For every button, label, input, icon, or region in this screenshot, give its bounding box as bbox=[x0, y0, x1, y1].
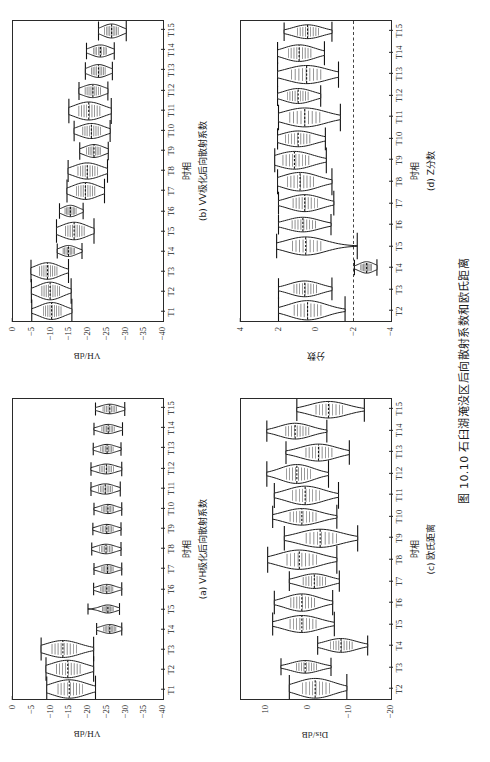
panel-a-y-tick: −35 bbox=[139, 700, 148, 718]
panel-a-y-tick: −10 bbox=[45, 700, 54, 718]
panel-c-y-tick: −10 bbox=[344, 700, 353, 718]
panel-d-x-tick: T9 bbox=[390, 155, 404, 164]
panel-d-x-tick: T6 bbox=[390, 220, 404, 229]
panel-c-x-tick: T8 bbox=[390, 555, 404, 564]
panel-b-y-tick: −30 bbox=[120, 322, 129, 340]
panel-b-x-tick: T5 bbox=[162, 227, 176, 236]
rotated-page: VH/dB 0−5−10−15−20−25−30−35−40 T1T2T3T4T… bbox=[0, 0, 490, 762]
panel-c-y-tick: 0 bbox=[302, 700, 311, 709]
panel-a-plot-area bbox=[12, 398, 164, 700]
panel-a-y-tick: −15 bbox=[64, 700, 73, 718]
panel-d-z-score: 分数 420−2−4 T2T3T4T5T6T7T8T9T10T11T12T13T… bbox=[236, 14, 448, 366]
panel-c-y-tick: −20 bbox=[386, 700, 395, 718]
panel-b-vv-backscatter: VH/dB 0−5−10−15−20−25−30−35−40 T1T2T3T4T… bbox=[8, 14, 220, 366]
panel-c-subcaption: (c) 欧氏距离 bbox=[424, 398, 437, 700]
panel-b-x-tick: T4 bbox=[162, 247, 176, 256]
panel-d-x-tick: T15 bbox=[390, 24, 404, 38]
panel-d-y-tick: −4 bbox=[386, 322, 395, 336]
panel-b-x-tick: T11 bbox=[162, 104, 176, 117]
panel-c-x-ticks: T2T3T4T5T6T7T8T9T10T11T12T13T14T15 bbox=[390, 398, 406, 700]
panel-d-x-tick: T14 bbox=[390, 46, 404, 60]
panel-c-x-tick: T7 bbox=[390, 577, 404, 586]
panel-d-x-tick: T2 bbox=[390, 306, 404, 315]
panel-c-x-tick: T15 bbox=[390, 402, 404, 416]
panel-a-x-tick: T15 bbox=[162, 401, 176, 415]
panel-b-y-tick: 0 bbox=[8, 322, 17, 331]
panel-b-y-tick: −25 bbox=[102, 322, 111, 340]
panel-a-x-tick: T13 bbox=[162, 441, 176, 455]
panel-a-y-tick: 0 bbox=[8, 700, 17, 709]
panel-d-x-tick: T4 bbox=[390, 263, 404, 272]
panel-c-x-tick: T4 bbox=[390, 641, 404, 650]
panel-d-x-tick: T12 bbox=[390, 89, 404, 103]
panel-d-x-tick: T11 bbox=[390, 110, 404, 123]
panel-d-y-tick: 4 bbox=[236, 322, 245, 331]
panel-c-x-tick: T14 bbox=[390, 424, 404, 438]
panel-b-y-tick: −35 bbox=[139, 322, 148, 340]
panel-d-x-tick: T10 bbox=[390, 132, 404, 146]
panel-b-x-tick: T2 bbox=[162, 287, 176, 296]
panel-a-x-tick: T1 bbox=[162, 685, 176, 694]
panel-a-x-tick: T3 bbox=[162, 645, 176, 654]
panel-a-y-tick: −20 bbox=[83, 700, 92, 718]
panel-b-x-tick: T3 bbox=[162, 267, 176, 276]
panel-b-y-axis-label: VH/dB bbox=[12, 350, 162, 364]
panel-a-x-axis-label: 时相 bbox=[180, 398, 193, 700]
panel-a-x-tick: T9 bbox=[162, 524, 176, 533]
panel-d-plot-area bbox=[240, 20, 392, 322]
panel-a-violin-svg bbox=[13, 399, 163, 699]
panel-a-x-tick: T11 bbox=[162, 482, 176, 495]
panel-a-y-axis-label: VH/dB bbox=[12, 728, 162, 742]
panel-a-x-tick: T5 bbox=[162, 605, 176, 614]
panel-a-x-tick: T12 bbox=[162, 462, 176, 476]
panel-b-x-tick: T1 bbox=[162, 307, 176, 316]
panel-b-y-tick: −20 bbox=[83, 322, 92, 340]
panel-b-x-tick: T6 bbox=[162, 207, 176, 216]
panel-b-violin-svg bbox=[13, 21, 163, 321]
figure-container: VH/dB 0−5−10−15−20−25−30−35−40 T1T2T3T4T… bbox=[0, 0, 490, 762]
panel-b-x-tick: T12 bbox=[162, 84, 176, 98]
panel-b-x-tick: T9 bbox=[162, 146, 176, 155]
panel-d-y-tick: 2 bbox=[273, 322, 282, 331]
panel-c-x-tick: T6 bbox=[390, 598, 404, 607]
panel-c-x-tick: T5 bbox=[390, 620, 404, 629]
panel-a-x-tick: T14 bbox=[162, 421, 176, 435]
panel-a-subcaption: (a) VH极化后向散射系数 bbox=[196, 398, 209, 700]
panel-b-y-tick: −10 bbox=[45, 322, 54, 340]
panel-d-y-tick: 0 bbox=[311, 322, 320, 331]
panel-a-x-tick: T4 bbox=[162, 625, 176, 634]
panel-a-x-ticks: T1T2T3T4T5T6T7T8T9T10T11T12T13T14T15 bbox=[162, 398, 178, 700]
panel-c-violin-svg bbox=[241, 399, 391, 699]
panel-b-x-ticks: T1T2T3T4T5T6T7T8T9T10T11T12T13T14T15 bbox=[162, 20, 178, 322]
panel-d-x-axis-label: 时相 bbox=[408, 20, 421, 322]
panel-d-x-tick: T3 bbox=[390, 285, 404, 294]
panel-c-x-axis-label: 时相 bbox=[408, 398, 421, 700]
panel-c-x-tick: T12 bbox=[390, 467, 404, 481]
panel-d-x-ticks: T2T3T4T5T6T7T8T9T10T11T12T13T14T15 bbox=[390, 20, 406, 322]
panel-c-x-tick: T3 bbox=[390, 663, 404, 672]
panel-b-subcaption: (b) VV极化后向散射系数 bbox=[196, 20, 209, 322]
panel-d-y-axis-label: 分数 bbox=[240, 350, 390, 364]
panel-d-x-tick: T7 bbox=[390, 199, 404, 208]
panel-a-x-tick: T6 bbox=[162, 585, 176, 594]
figure-caption: 图 10.10 石臼湖淹没区后向散射系数和欧氏距离 bbox=[455, 0, 471, 762]
panel-c-euclidean-distance: Dis/dB 100−10−20 T2T3T4T5T6T7T8T9T10T11T… bbox=[236, 392, 448, 744]
panel-a-x-tick: T8 bbox=[162, 544, 176, 553]
panel-b-x-tick: T14 bbox=[162, 43, 176, 57]
panel-c-x-tick: T11 bbox=[390, 488, 404, 501]
panel-b-x-axis-label: 时相 bbox=[180, 20, 193, 322]
panel-b-x-tick: T8 bbox=[162, 166, 176, 175]
panel-c-x-tick: T2 bbox=[390, 684, 404, 693]
panel-a-x-tick: T2 bbox=[162, 665, 176, 674]
panel-b-x-tick: T10 bbox=[162, 124, 176, 138]
panel-a-y-tick: −30 bbox=[120, 700, 129, 718]
panel-b-x-tick: T15 bbox=[162, 23, 176, 37]
panel-b-y-tick: −15 bbox=[64, 322, 73, 340]
panel-d-y-tick: −2 bbox=[348, 322, 357, 336]
panel-a-y-tick: −25 bbox=[102, 700, 111, 718]
panel-c-x-tick: T10 bbox=[390, 510, 404, 524]
panel-a-y-tick: −40 bbox=[158, 700, 167, 718]
panel-b-x-tick: T7 bbox=[162, 186, 176, 195]
panel-d-subcaption: (d) Z分数 bbox=[424, 20, 437, 322]
panel-a-x-tick: T10 bbox=[162, 502, 176, 516]
